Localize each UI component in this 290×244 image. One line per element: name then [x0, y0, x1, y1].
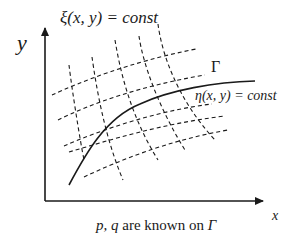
xi-const-lines [69, 24, 215, 180]
caption: p, q are known on Γ [96, 217, 216, 234]
y-axis-label: y [17, 30, 27, 56]
xi-line-5 [158, 24, 215, 140]
caption-text: are known on [119, 217, 208, 233]
xi-curve-label: ξ(x, y) = const [60, 8, 158, 28]
axes [45, 28, 263, 201]
caption-gamma: Γ [208, 217, 217, 233]
eta-line-5 [84, 130, 228, 177]
eta-line-1 [52, 49, 196, 95]
eta-line-2 [58, 75, 205, 120]
x-axis-label: x [272, 208, 278, 224]
eta-line-3 [64, 104, 212, 146]
eta-const-lines [52, 49, 228, 177]
gamma-label: Γ [211, 58, 220, 76]
eta-curve-label: η(x, y) = const [195, 88, 277, 104]
diagram-canvas [0, 0, 290, 244]
caption-vars: p, q [96, 217, 119, 233]
xi-line-1 [69, 65, 84, 160]
